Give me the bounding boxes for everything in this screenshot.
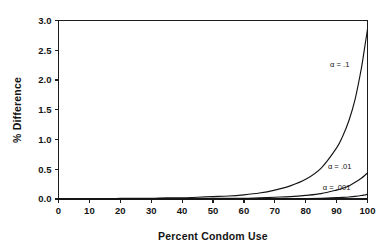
y-axis-title: % Difference [11, 77, 23, 143]
series-label-2: α = .001 [323, 183, 351, 192]
x-tick-label: 40 [177, 205, 188, 216]
y-tick-label: 2.0 [38, 74, 51, 85]
x-tick-label: 0 [56, 205, 61, 216]
x-tick-label: 60 [239, 205, 250, 216]
x-tick-label: 10 [84, 205, 95, 216]
y-tick-label: 0.0 [38, 193, 51, 204]
x-tick-label: 80 [300, 205, 311, 216]
x-tick-label: 90 [331, 205, 342, 216]
y-tick-label: 0.5 [38, 164, 52, 175]
y-tick-label: 2.5 [38, 45, 52, 56]
x-tick-label: 50 [208, 205, 219, 216]
x-tick-label: 70 [270, 205, 281, 216]
line-chart: 0.00.51.01.52.02.53.0 010203040506070809… [0, 0, 384, 249]
y-tick-label: 1.0 [38, 134, 51, 145]
x-tick-label: 20 [115, 205, 126, 216]
y-tick-label: 1.5 [38, 104, 52, 115]
x-axis-title: Percent Condom Use [158, 230, 268, 242]
y-tick-label: 3.0 [38, 15, 51, 26]
x-tick-label: 30 [146, 205, 157, 216]
chart-figure: 0.00.51.01.52.02.53.0 010203040506070809… [0, 0, 384, 249]
series-label-0: α = .1 [330, 60, 349, 69]
series-label-1: α = .01 [328, 162, 352, 171]
x-tick-label: 100 [360, 205, 376, 216]
